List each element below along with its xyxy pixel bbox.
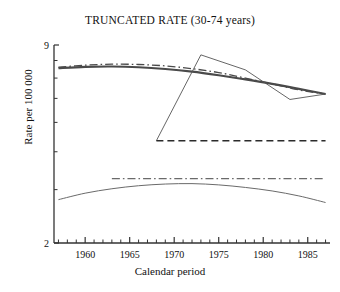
x-tick-label: 1970 xyxy=(164,249,184,260)
axis-layer xyxy=(54,45,330,243)
x-tick-label: 1980 xyxy=(253,249,273,260)
x-tick-label: 1975 xyxy=(209,249,229,260)
chart-figure: TRUNCATED RATE (30-74 years) Rate per 10… xyxy=(0,0,340,292)
y-axis-tick-labels: 92 xyxy=(44,40,49,249)
series-fitted-rate-dashdot xyxy=(58,64,325,94)
x-axis-tick-labels: 196019651970197519801985 xyxy=(75,249,318,260)
y-axis-ticks xyxy=(54,45,59,243)
y-tick-label: 2 xyxy=(44,238,49,249)
series-observed-rate-thick xyxy=(58,67,325,95)
series-lower-rate-arc xyxy=(58,184,325,203)
plot-area: 92 196019651970197519801985 xyxy=(0,0,340,292)
x-tick-label: 1965 xyxy=(120,249,140,260)
series-cohort-rate-thin xyxy=(156,55,325,141)
x-tick-label: 1985 xyxy=(298,249,318,260)
x-tick-label: 1960 xyxy=(75,249,95,260)
data-series-layer xyxy=(58,55,325,203)
y-tick-label: 9 xyxy=(44,40,49,51)
x-axis-ticks xyxy=(58,237,325,243)
